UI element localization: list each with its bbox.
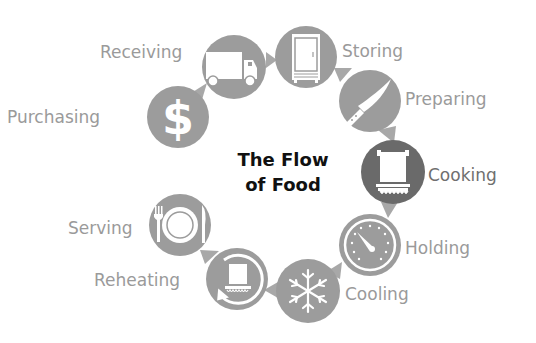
label-holding: Holding bbox=[405, 238, 470, 258]
step-cooling bbox=[276, 259, 340, 323]
title-line-1: The Flow bbox=[228, 147, 338, 172]
step-serving bbox=[149, 194, 211, 256]
dollar-icon: $ bbox=[162, 91, 194, 145]
flow-of-food-diagram: $ bbox=[0, 0, 536, 343]
step-reheating bbox=[206, 248, 268, 310]
step-purchasing: $ bbox=[147, 86, 209, 148]
label-cooling: Cooling bbox=[345, 284, 409, 304]
label-cooking: Cooking bbox=[428, 165, 497, 185]
step-holding bbox=[339, 214, 401, 276]
label-purchasing: Purchasing bbox=[7, 107, 100, 127]
cooking-pot-icon bbox=[376, 150, 410, 194]
refrigerator-icon bbox=[292, 34, 320, 83]
step-preparing bbox=[339, 70, 401, 132]
step-receiving bbox=[202, 35, 266, 99]
step-storing bbox=[275, 26, 337, 88]
label-preparing: Preparing bbox=[405, 89, 487, 109]
label-receiving: Receiving bbox=[100, 42, 182, 62]
step-cooking bbox=[361, 140, 425, 204]
label-storing: Storing bbox=[342, 41, 403, 61]
arrow-cooking-to-holding bbox=[381, 202, 398, 218]
title-line-2: of Food bbox=[228, 172, 338, 197]
label-reheating: Reheating bbox=[94, 270, 180, 290]
label-serving: Serving bbox=[68, 218, 133, 238]
diagram-title: The Flow of Food bbox=[228, 147, 338, 197]
